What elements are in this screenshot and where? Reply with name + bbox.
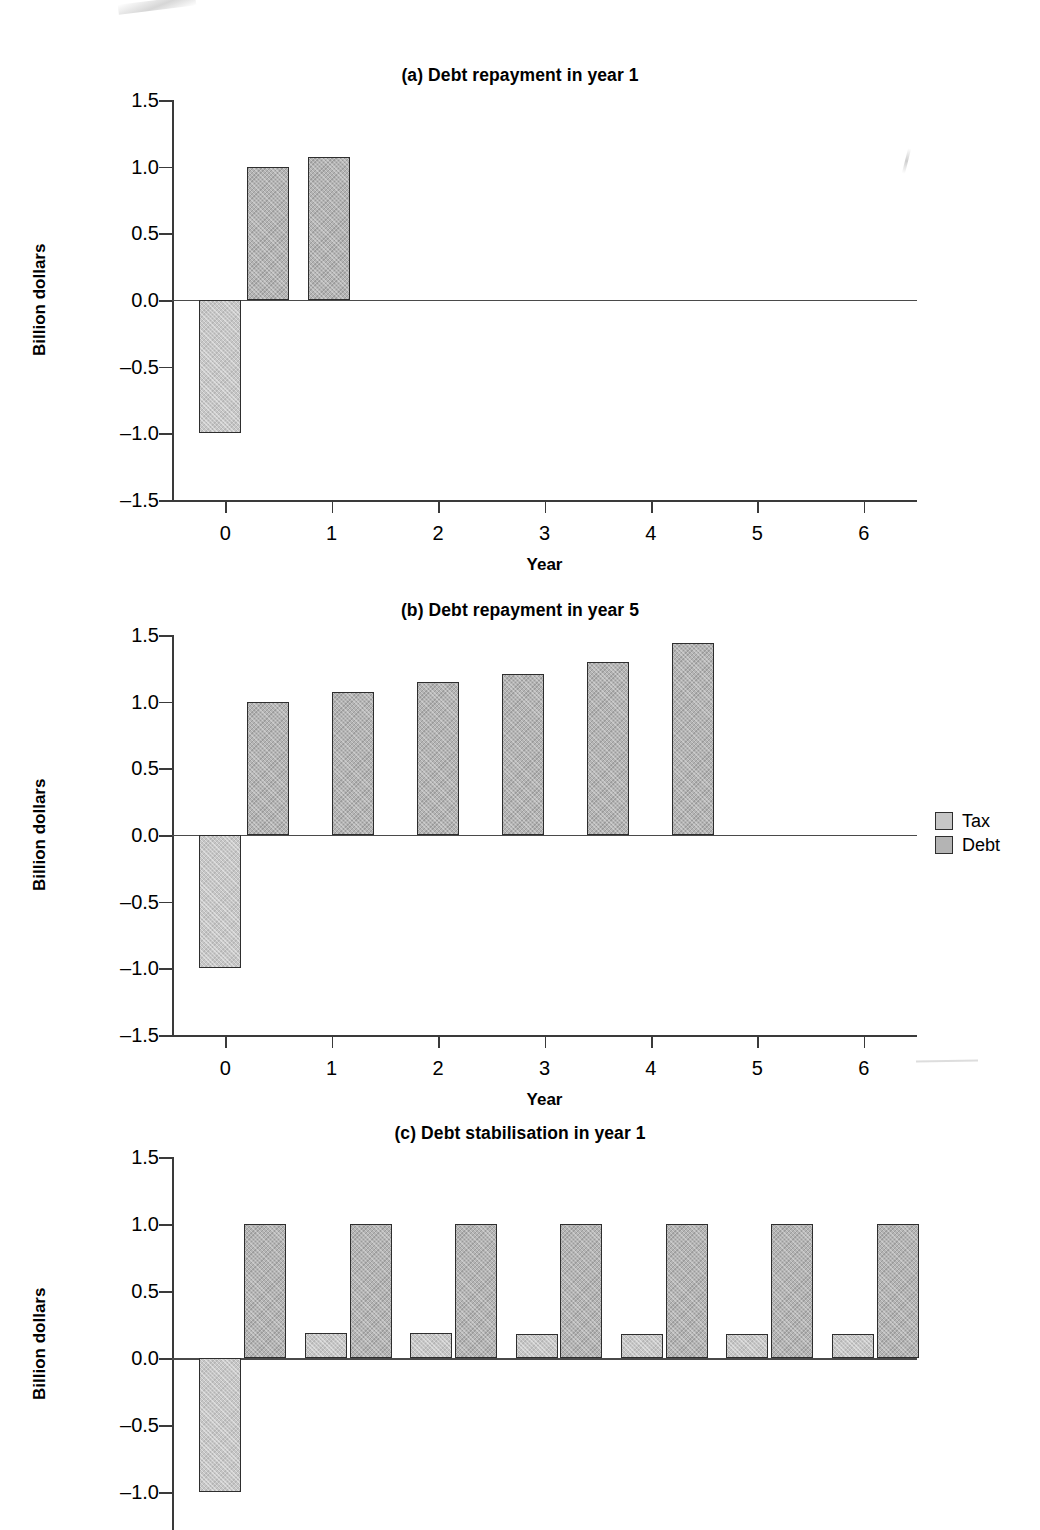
x-axis-tick xyxy=(332,1035,334,1048)
bar-tax xyxy=(516,1334,558,1358)
y-axis-tick xyxy=(159,167,172,169)
bar-debt xyxy=(247,167,289,300)
bar-tax xyxy=(199,300,241,433)
y-axis-tick xyxy=(159,768,172,770)
x-axis-tick xyxy=(651,500,653,513)
y-axis-tick xyxy=(159,233,172,235)
y-axis-tick xyxy=(159,367,172,369)
panel-c-y-axis-label: Billion dollars xyxy=(30,1287,50,1399)
legend-swatch-debt-icon xyxy=(935,836,953,854)
panel-a-y-axis-label: Billion dollars xyxy=(30,244,50,356)
y-axis-tick-label: 1.5 xyxy=(131,1146,159,1169)
y-axis-tick xyxy=(159,1224,172,1226)
x-axis-tick-label: 4 xyxy=(645,1057,656,1080)
panel-a-title: (a) Debt repayment in year 1 xyxy=(0,65,1040,86)
bar-tax xyxy=(199,835,241,968)
y-axis-tick xyxy=(159,1157,172,1159)
bar-debt xyxy=(560,1224,602,1358)
bar-debt xyxy=(332,692,374,835)
bar-debt xyxy=(308,157,350,300)
y-axis-line xyxy=(172,1157,174,1530)
x-axis-tick-label: 6 xyxy=(858,1057,869,1080)
x-axis-tick xyxy=(651,1035,653,1048)
x-axis-tick xyxy=(864,1035,866,1048)
x-axis-tick-label: 0 xyxy=(220,522,231,545)
panel-a-plot-area: 1.51.00.50.0–0.5–1.0–1.50123456 xyxy=(172,100,917,500)
y-axis-tick-label: –1.0 xyxy=(120,422,159,445)
legend-swatch-tax-icon xyxy=(935,812,953,830)
legend-label-tax: Tax xyxy=(962,812,990,830)
chart-panel-a: (a) Debt repayment in year 1 Billion dol… xyxy=(0,55,1040,560)
x-axis-tick-label: 0 xyxy=(220,1057,231,1080)
bar-debt xyxy=(502,674,544,835)
y-axis-tick-label: –1.0 xyxy=(120,1481,159,1504)
x-axis-tick xyxy=(225,1035,227,1048)
y-axis-tick-label: –1.5 xyxy=(120,1024,159,1047)
bar-debt xyxy=(455,1224,497,1358)
x-axis-tick xyxy=(757,1035,759,1048)
y-axis-tick-label: 0.5 xyxy=(131,757,159,780)
panel-b-y-axis-label: Billion dollars xyxy=(30,779,50,891)
legend-item-debt: Debt xyxy=(935,836,1000,854)
y-axis-tick xyxy=(159,433,172,435)
bar-tax xyxy=(305,1333,347,1358)
x-axis-tick xyxy=(438,1035,440,1048)
zero-reference-line xyxy=(172,300,917,301)
y-axis-tick-label: –1.0 xyxy=(120,957,159,980)
x-axis-tick xyxy=(438,500,440,513)
bar-debt xyxy=(771,1224,813,1358)
x-axis-tick-label: 3 xyxy=(539,1057,550,1080)
y-axis-tick-label: 1.0 xyxy=(131,690,159,713)
x-axis-tick-label: 2 xyxy=(433,522,444,545)
y-axis-tick xyxy=(159,1492,172,1494)
bar-tax xyxy=(726,1334,768,1358)
bar-debt xyxy=(666,1224,708,1358)
chart-panel-c: (c) Debt stabilisation in year 1 Billion… xyxy=(0,1115,1040,1530)
y-axis-tick xyxy=(159,635,172,637)
y-axis-tick-label: 0.0 xyxy=(131,1347,159,1370)
bar-debt xyxy=(247,702,289,835)
bar-debt xyxy=(877,1224,919,1358)
x-axis-tick-label: 4 xyxy=(645,522,656,545)
bar-tax xyxy=(832,1334,874,1358)
x-axis-tick-label: 3 xyxy=(539,522,550,545)
y-axis-tick-label: 1.0 xyxy=(131,1213,159,1236)
y-axis-tick xyxy=(159,1291,172,1293)
x-axis-tick-label: 6 xyxy=(858,522,869,545)
y-axis-tick-label: 1.0 xyxy=(131,155,159,178)
x-axis-tick-label: 2 xyxy=(433,1057,444,1080)
y-axis-tick-label: –1.5 xyxy=(120,489,159,512)
legend-item-tax: Tax xyxy=(935,812,1000,830)
x-axis-tick-label: 5 xyxy=(752,1057,763,1080)
y-axis-tick-label: 0.5 xyxy=(131,222,159,245)
y-axis-tick xyxy=(159,702,172,704)
bar-debt xyxy=(587,662,629,835)
bar-debt xyxy=(672,643,714,835)
bar-debt xyxy=(350,1224,392,1358)
bar-debt xyxy=(244,1224,286,1358)
y-axis-tick-label: 1.5 xyxy=(131,624,159,647)
x-axis-tick xyxy=(225,500,227,513)
y-axis-tick-label: 0.0 xyxy=(131,824,159,847)
y-axis-tick xyxy=(159,968,172,970)
bar-tax xyxy=(199,1358,241,1492)
bar-tax xyxy=(621,1334,663,1358)
panel-b-plot-area: 1.51.00.50.0–0.5–1.0–1.50123456 xyxy=(172,635,917,1035)
y-axis-tick xyxy=(159,300,172,302)
x-axis-tick xyxy=(545,1035,547,1048)
zero-reference-line xyxy=(172,1358,917,1359)
scan-artifact-top xyxy=(118,0,197,15)
panel-b-title: (b) Debt repayment in year 5 xyxy=(0,600,1040,621)
y-axis-tick xyxy=(159,1358,172,1360)
chart-panel-b: (b) Debt repayment in year 5 Billion dol… xyxy=(0,590,1040,1095)
x-axis-tick xyxy=(545,500,547,513)
zero-reference-line xyxy=(172,835,917,836)
x-axis-tick-label: 5 xyxy=(752,522,763,545)
y-axis-tick-label: 0.0 xyxy=(131,289,159,312)
x-axis-tick xyxy=(864,500,866,513)
y-axis-tick-label: 0.5 xyxy=(131,1280,159,1303)
y-axis-tick xyxy=(159,500,172,502)
chart-legend: Tax Debt xyxy=(935,812,1000,860)
x-axis-tick-label: 1 xyxy=(326,1057,337,1080)
x-axis-tick xyxy=(757,500,759,513)
